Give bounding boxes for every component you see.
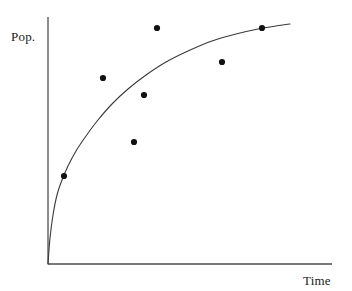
scatter-point <box>259 25 265 31</box>
scatter-point <box>141 92 147 98</box>
plot-canvas <box>0 0 352 291</box>
x-axis-label: Time <box>303 274 331 287</box>
scatter-point <box>100 75 106 81</box>
scatter-point <box>154 25 160 31</box>
scatter-point <box>61 173 67 179</box>
y-axis-label: Pop. <box>11 30 35 43</box>
plot-background <box>0 0 352 291</box>
scatter-point <box>131 139 137 145</box>
scatter-point <box>219 59 225 65</box>
chart-figure: Pop. Time <box>0 0 352 291</box>
